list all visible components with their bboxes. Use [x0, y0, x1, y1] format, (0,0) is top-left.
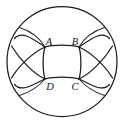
geometry-figure-container: A B D C [0, 0, 125, 123]
arc-side-DC [45, 77, 79, 79]
sweep-right-lower [79, 47, 113, 78]
vertex-label-a: A [45, 36, 53, 47]
sweep-left-upper [12, 46, 46, 79]
vertex-label-b: B [72, 36, 79, 47]
corner-arc-bottom-left-icon [20, 79, 46, 96]
arc-side-AD [43, 47, 45, 79]
geometry-figure-svg: A B D C [0, 0, 125, 123]
vertex-label-d: D [45, 81, 54, 92]
vertex-label-c: C [71, 81, 79, 92]
corner-arc-bottom-right-icon [79, 79, 105, 96]
arc-side-BC [79, 47, 81, 79]
sweep-left-lower [12, 47, 46, 78]
sweep-right-upper [79, 46, 113, 79]
